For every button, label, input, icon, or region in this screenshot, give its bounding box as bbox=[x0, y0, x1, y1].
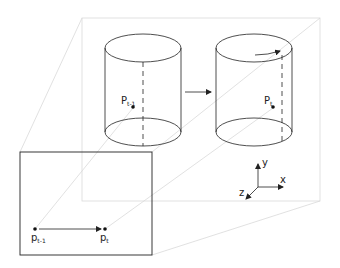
label-P-t: Pt bbox=[264, 96, 272, 107]
label-sub: t bbox=[106, 237, 108, 244]
cylinder-t-1 bbox=[105, 34, 181, 146]
label-p-t-1: pt-1 bbox=[31, 233, 46, 244]
label-P-t-1: Pt-1 bbox=[121, 96, 135, 107]
label-sub: t bbox=[270, 100, 272, 107]
axes-icon bbox=[246, 164, 283, 199]
axis-label-y: y bbox=[262, 158, 268, 168]
axis-label-z: z bbox=[239, 188, 244, 198]
label-sub: t-1 bbox=[127, 100, 135, 107]
cylinder-t bbox=[216, 34, 292, 146]
label-p-t: pt bbox=[100, 233, 109, 244]
diagram-canvas bbox=[0, 0, 340, 268]
point-p-t bbox=[103, 227, 107, 231]
point-p-t-1 bbox=[33, 227, 37, 231]
label-sub: t-1 bbox=[37, 237, 45, 244]
axis-label-x: x bbox=[280, 175, 286, 185]
